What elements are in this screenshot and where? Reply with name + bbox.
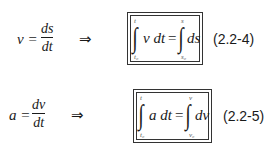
acceleration-fraction: dv dt bbox=[32, 97, 45, 130]
denominator: dt bbox=[42, 39, 53, 54]
velocity-fraction: ds dt bbox=[41, 21, 53, 54]
acceleration-lhs: a = bbox=[9, 107, 30, 124]
left-integrand: a dt bbox=[149, 107, 172, 124]
integral-sign-icon: ∫ bbox=[178, 24, 183, 52]
implies-arrow-icon: ⇒ bbox=[71, 106, 84, 124]
integral-sign-icon: ∫ bbox=[185, 101, 190, 129]
integral-sign-icon: ∫ bbox=[138, 101, 143, 129]
fraction-bar bbox=[41, 37, 53, 38]
right-integrand: dv bbox=[195, 107, 209, 124]
fraction-bar bbox=[32, 113, 45, 114]
lower-limit: t₀ bbox=[140, 131, 144, 139]
right-integrand: ds bbox=[187, 30, 200, 47]
boxed-integral-equation: t ∫ t₀ a dt = v ∫ v₀ dv bbox=[133, 89, 212, 143]
integral-sign-icon: ∫ bbox=[132, 24, 137, 52]
velocity-lhs: v = bbox=[17, 31, 38, 48]
implies-arrow-icon: ⇒ bbox=[79, 30, 92, 48]
lower-limit: t₀ bbox=[134, 53, 138, 61]
equation-number: (2.2-5) bbox=[223, 108, 264, 124]
lower-limit: s₀ bbox=[181, 53, 186, 61]
equation-number: (2.2-4) bbox=[213, 31, 254, 47]
lower-limit: v₀ bbox=[189, 131, 195, 139]
numerator: ds bbox=[41, 21, 53, 36]
denominator: dt bbox=[33, 115, 44, 130]
boxed-integral-equation: t ∫ t₀ v dt = s ∫ s₀ ds bbox=[127, 12, 203, 65]
left-integrand: v dt bbox=[143, 30, 165, 47]
numerator: dv bbox=[32, 97, 45, 112]
box-inner-border: t ∫ t₀ a dt = v ∫ v₀ dv bbox=[136, 92, 209, 140]
box-inner-border: t ∫ t₀ v dt = s ∫ s₀ ds bbox=[130, 15, 200, 62]
equals-sign: = bbox=[175, 107, 183, 124]
equals-sign: = bbox=[168, 30, 176, 47]
